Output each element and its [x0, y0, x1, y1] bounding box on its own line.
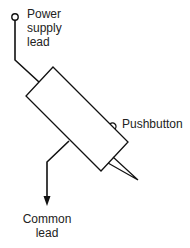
- label-line: Common: [22, 212, 72, 226]
- common-lead-wire: [47, 141, 69, 198]
- pushbutton-switch-diagram: Power supply lead Pushbutton Common lead: [0, 0, 190, 248]
- contact-pin: [108, 157, 138, 180]
- label-line: lead: [27, 35, 62, 49]
- label-line: Power: [27, 7, 62, 21]
- terminal-circle-icon: [12, 14, 18, 20]
- pushbutton-icon: [110, 123, 116, 129]
- pushbutton-label: Pushbutton: [122, 117, 183, 131]
- arrow-down-icon: [44, 196, 51, 206]
- label-line: supply: [27, 21, 62, 35]
- power-supply-lead-label: Power supply lead: [27, 7, 62, 49]
- label-line: lead: [22, 226, 72, 240]
- common-lead-label: Common lead: [22, 212, 72, 240]
- switch-body: [26, 67, 128, 171]
